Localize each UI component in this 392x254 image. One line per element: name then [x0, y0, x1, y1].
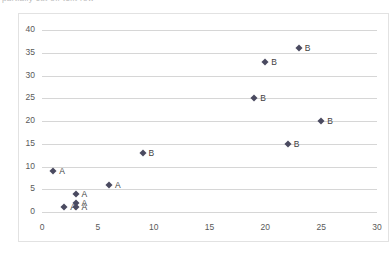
data-point-label: B [271, 57, 277, 66]
data-point-label: B [327, 117, 333, 126]
y-axis-tick-label: 30 [15, 71, 35, 80]
gridline-y-0 [42, 212, 377, 213]
x-axis-tick-label: 25 [311, 223, 331, 232]
y-axis-tick-label: 25 [15, 93, 35, 102]
gridline-y-15 [42, 144, 377, 145]
x-axis-tick-label: 5 [88, 223, 108, 232]
data-point-label: B [149, 148, 155, 157]
x-axis-tick-label: 20 [255, 223, 275, 232]
x-axis-tick-label: 10 [144, 223, 164, 232]
data-point-marker [262, 58, 269, 65]
data-point-marker [61, 204, 68, 211]
data-point-label: A [115, 180, 121, 189]
gridline-y-5 [42, 189, 377, 190]
data-point-label: A [82, 203, 88, 212]
data-point-marker [284, 140, 291, 147]
gridline-y-40 [42, 30, 377, 31]
gridline-y-30 [42, 76, 377, 77]
data-point-marker [318, 117, 325, 124]
gridline-y-35 [42, 53, 377, 54]
data-point-marker [105, 181, 112, 188]
y-axis-tick-label: 35 [15, 48, 35, 57]
y-axis-tick-label: 15 [15, 139, 35, 148]
y-axis-tick-label: 0 [15, 207, 35, 216]
data-point-marker [72, 190, 79, 197]
data-point-label: A [59, 167, 65, 176]
data-point-label: B [305, 44, 311, 53]
gridline-y-10 [42, 167, 377, 168]
gridline-y-25 [42, 98, 377, 99]
x-axis-tick-label: 0 [32, 223, 52, 232]
data-point-label: B [260, 94, 266, 103]
y-axis-tick-label: 10 [15, 162, 35, 171]
x-axis-tick-label: 30 [367, 223, 387, 232]
data-point-marker [251, 95, 258, 102]
scatter-plot: 0510152025303540051015202530AAAAAABBBBBB [0, 0, 392, 254]
data-point-marker [295, 45, 302, 52]
y-axis-tick-label: 40 [15, 25, 35, 34]
data-point-marker [139, 149, 146, 156]
y-axis-tick-label: 5 [15, 184, 35, 193]
x-axis-tick-label: 15 [200, 223, 220, 232]
data-point-marker [50, 168, 57, 175]
data-point-label: B [294, 139, 300, 148]
y-axis-tick-label: 20 [15, 116, 35, 125]
